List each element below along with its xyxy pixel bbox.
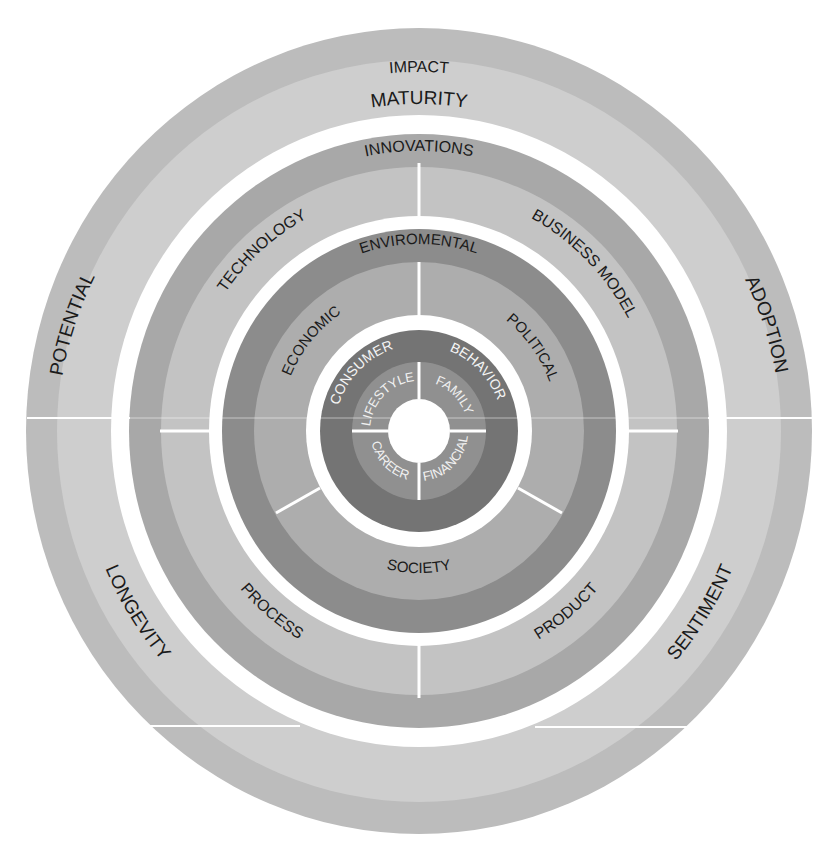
label-impact: IMPACT <box>388 58 449 76</box>
center-hole <box>388 399 450 463</box>
label-maturity: MATURITY <box>369 87 469 112</box>
concentric-diagram: IMPACT MATURITY POTENTIAL ADOPTION LONGE… <box>0 0 834 857</box>
